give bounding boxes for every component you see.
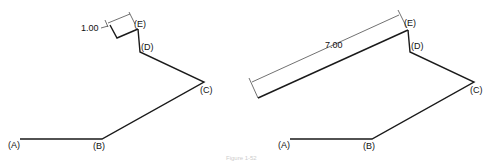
left-label-e: (E): [134, 19, 146, 29]
right-label-b: (B): [363, 141, 375, 151]
diagram-canvas: 1.00 (A) (B) (C) (D) (E) 7.00 (A) (B) (C…: [0, 0, 491, 162]
left-dim-line: [108, 14, 130, 23]
right-dimension-text: 7.00: [325, 40, 343, 50]
figure-caption: Figure 1-52: [226, 155, 257, 161]
left-label-b: (B): [93, 141, 105, 151]
right-label-e: (E): [404, 18, 416, 28]
left-label-a: (A): [8, 140, 20, 150]
left-figure: 1.00 (A) (B) (C) (D) (E): [8, 12, 213, 151]
left-leader: [101, 26, 108, 28]
left-dimension-text: 1.00: [81, 23, 99, 33]
left-label-c: (C): [200, 85, 213, 95]
right-label-d: (D): [411, 41, 424, 51]
left-label-d: (D): [141, 42, 154, 52]
right-label-c: (C): [470, 85, 483, 95]
right-polyline-abcde: [290, 30, 474, 139]
left-polyline-abcde: [20, 29, 204, 139]
right-label-a: (A): [278, 140, 290, 150]
right-figure: 7.00 (A) (B) (C) (D) (E): [249, 10, 483, 151]
